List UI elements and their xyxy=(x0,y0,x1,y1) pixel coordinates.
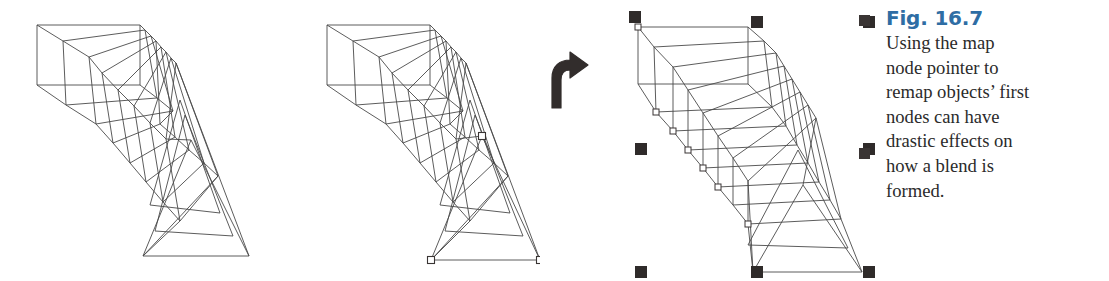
blend-before-artwork xyxy=(0,0,290,281)
caption-line: how a blend is xyxy=(886,154,1101,179)
curved-arrow-right-icon xyxy=(540,48,600,122)
caption-line: Using the map xyxy=(886,31,1101,56)
node-marker-apex[interactable] xyxy=(479,133,486,140)
selection-handle-bottom-center[interactable] xyxy=(751,266,763,278)
first-node-marker[interactable] xyxy=(685,147,691,153)
first-node-marker-group xyxy=(635,24,751,227)
panel-blend-after xyxy=(620,0,880,281)
node-marker-bottom-left[interactable] xyxy=(428,257,435,264)
figure-stage: Fig. 16.7 Using the map node pointer to … xyxy=(0,0,1109,281)
node-marker-bottom-right[interactable] xyxy=(537,257,541,264)
figure-caption-title: Fig. 16.7 xyxy=(886,6,1101,30)
first-node-marker[interactable] xyxy=(715,184,721,190)
selection-handle-top-left[interactable] xyxy=(629,11,641,23)
selection-handle-bottom-right[interactable] xyxy=(863,266,875,278)
first-node-marker[interactable] xyxy=(653,109,659,115)
first-node-marker[interactable] xyxy=(745,221,751,227)
first-node-marker[interactable] xyxy=(700,165,706,171)
caption-line: node pointer to xyxy=(886,56,1101,81)
caption-line: formed. xyxy=(886,179,1101,204)
first-node-marker[interactable] xyxy=(635,24,641,30)
first-node-marker[interactable] xyxy=(670,128,676,134)
figure-caption: Fig. 16.7 Using the map node pointer to … xyxy=(886,6,1101,203)
caption-line: remap objects’ first xyxy=(886,80,1101,105)
caption-bullet-square-middle xyxy=(859,148,870,159)
caption-bullet-square-top xyxy=(859,15,870,26)
caption-line: nodes can have xyxy=(886,105,1101,130)
arrow-container xyxy=(540,48,600,122)
selection-handle-top-center[interactable] xyxy=(751,16,763,28)
blend-node-markers-artwork xyxy=(290,0,540,281)
selection-handle-bottom-left[interactable] xyxy=(635,266,647,278)
figure-caption-body: Using the map node pointer to remap obje… xyxy=(886,31,1101,203)
blend-after-artwork xyxy=(620,0,880,281)
panel-blend-before xyxy=(0,0,290,281)
panel-blend-node-markers xyxy=(290,0,540,281)
selection-handle-middle-left[interactable] xyxy=(635,143,647,155)
caption-line: drastic effects on xyxy=(886,129,1101,154)
